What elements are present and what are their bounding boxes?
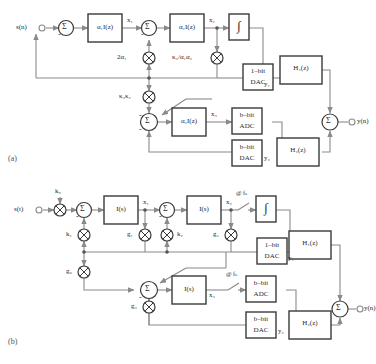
gain-k0-label: k₀ xyxy=(55,188,61,195)
block-b-integ1-label: I(s) xyxy=(104,206,138,213)
block-a-dac1-line1: 1–bit xyxy=(243,68,273,75)
gain-kappa3kappa2-label: κ₃κ₂ xyxy=(119,93,131,100)
block-b-dac1-line2: DAC xyxy=(257,253,287,260)
summer-a1-symbol: Σ xyxy=(62,23,67,31)
summer-b1-symbol: Σ xyxy=(80,205,85,213)
block-b-integ3-label: I(s) xyxy=(172,286,206,293)
block-b-h1-label: H₁(z) xyxy=(289,240,331,247)
signal-a-x3-label: x₃ xyxy=(211,111,217,118)
signal-b-x2-label: x₂ xyxy=(226,199,232,206)
summer-b3-symbol: Σ xyxy=(145,285,150,293)
block-b-adc-line1: b–bit xyxy=(246,280,276,287)
summer-b1-minus: - xyxy=(76,213,79,221)
block-b-integ2-label: I(s) xyxy=(187,206,221,213)
summer-a3-minus-bot: - xyxy=(139,126,142,134)
gain-2alpha1-label: 2α₁ xyxy=(117,54,127,61)
block-a-dacb-line2: DAC xyxy=(232,155,262,162)
signal-b-x1-label: x₁ xyxy=(143,199,149,206)
gain-g1-label: g₁ xyxy=(127,231,133,238)
signal-a-y1-label: y₁ xyxy=(264,81,270,88)
summer-a2-minus: - xyxy=(141,31,144,39)
summer-a3-minus-top: - xyxy=(139,112,142,120)
panel-a-output-label: y(n) xyxy=(357,118,369,125)
block-b-quant-label: ∫ xyxy=(256,201,276,214)
panel-b-input-label: s(t) xyxy=(14,206,23,213)
summer-b2-symbol: Σ xyxy=(163,205,168,213)
block-b-dac1-line1: 1–bit xyxy=(257,242,287,249)
gain-g0-label: g₀ xyxy=(66,268,72,275)
signal-a-x2-label: x₂ xyxy=(209,17,215,24)
signal-b-y1-label: y₁ xyxy=(288,255,294,262)
block-b-dacb-line2: DAC xyxy=(246,327,276,334)
summer-b-out-symbol: Σ xyxy=(336,304,341,312)
block-a-h1-label: H₁(z) xyxy=(280,65,322,72)
block-b-h2-label: H₂(z) xyxy=(289,320,331,327)
panel-a-input-label: s(n) xyxy=(16,24,27,31)
signal-a-y2-label: y₂ xyxy=(264,155,270,162)
block-a-h2-label: H₂(z) xyxy=(277,147,319,154)
block-b-adc-line2: ADC xyxy=(246,291,276,298)
block-a-integ1-label: α₁I(z) xyxy=(88,24,122,31)
panel-a-caption: (a) xyxy=(8,155,17,163)
gain-g2-label: g₂ xyxy=(213,231,219,238)
signal-b-x3-label: x₃ xyxy=(209,292,215,299)
summer-a-out-symbol: Σ xyxy=(326,117,331,125)
block-a-integ2-label: α₂I(z) xyxy=(170,24,204,31)
block-b-dacb-line1: b–bit xyxy=(246,316,276,323)
summer-a1-minus: - xyxy=(58,31,61,39)
summer-b3-minus: - xyxy=(139,294,142,302)
block-a-quant-label: ∫ xyxy=(229,19,249,32)
summer-a3-symbol: Σ xyxy=(145,117,150,125)
sampler-top-label: @ fₛ xyxy=(236,190,247,196)
signal-a-x1-label: x₁ xyxy=(127,17,133,24)
sampler-bottom-label: @ fₛ xyxy=(226,271,237,277)
summer-a2-symbol: Σ xyxy=(145,23,150,31)
summer-b2-minus: - xyxy=(159,213,162,221)
block-a-dacb-line1: b–bit xyxy=(232,144,262,151)
gain-k2-label: k₂ xyxy=(177,231,183,238)
block-a-adc-line1: b–bit xyxy=(232,112,262,119)
gain-kappa2-label: κ₂/α₁α₂ xyxy=(172,54,192,61)
gain-g3-label: g₃ xyxy=(131,303,137,310)
signal-b-y2-label: y₂ xyxy=(278,328,284,335)
panel-b-caption: (b) xyxy=(8,338,17,346)
block-a-adc-line2: ADC xyxy=(232,123,262,130)
gain-k1-label: k₁ xyxy=(66,231,72,238)
block-a-integ3-label: α₃I(z) xyxy=(172,118,206,125)
panel-b-output-label: y(n) xyxy=(364,305,376,312)
